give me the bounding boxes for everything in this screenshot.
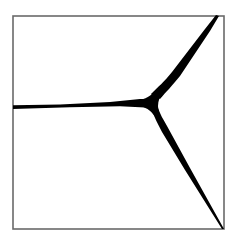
upper-right-arm (151, 15, 219, 99)
triple-junction-diagram (0, 0, 238, 243)
lower-right-arm (152, 108, 224, 229)
left-arm (13, 99, 152, 109)
